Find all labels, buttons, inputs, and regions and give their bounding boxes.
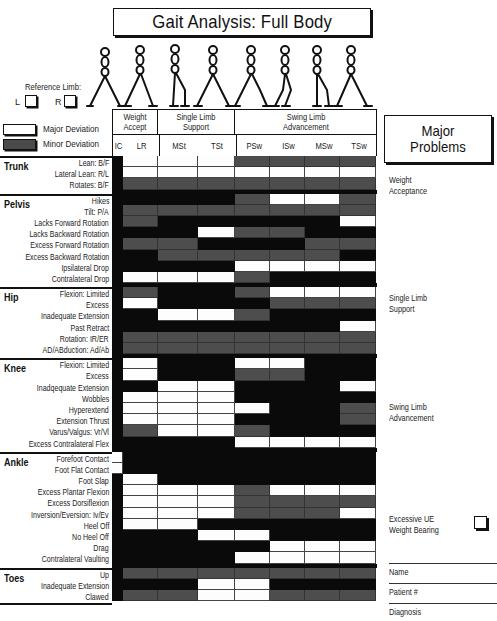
grid-cell-mst[interactable] bbox=[158, 519, 198, 530]
grid-cell-mst[interactable] bbox=[158, 392, 198, 403]
grid-cell-psw[interactable] bbox=[235, 485, 270, 496]
grid-cell-tst[interactable] bbox=[198, 343, 235, 354]
grid-cell-tst[interactable] bbox=[198, 272, 235, 283]
grid-cell-mst[interactable] bbox=[158, 381, 198, 392]
grid-cell-mst[interactable] bbox=[158, 332, 198, 343]
grid-cell-tst[interactable] bbox=[198, 381, 235, 392]
grid-cell-psw[interactable] bbox=[235, 272, 270, 283]
grid-cell-isw[interactable] bbox=[270, 205, 305, 216]
grid-cell-lr[interactable] bbox=[123, 167, 158, 178]
grid-cell-tst[interactable] bbox=[198, 590, 235, 601]
grid-cell-mst[interactable] bbox=[158, 272, 198, 283]
grid-cell-lr[interactable] bbox=[123, 496, 158, 507]
grid-cell-isw[interactable] bbox=[270, 568, 305, 579]
grid-cell-tsw[interactable] bbox=[340, 332, 376, 343]
grid-cell-tsw[interactable] bbox=[340, 194, 376, 205]
grid-cell-lr[interactable] bbox=[123, 332, 158, 343]
grid-cell-lr[interactable] bbox=[123, 414, 158, 425]
grid-cell-psw[interactable] bbox=[235, 287, 270, 298]
grid-cell-lr[interactable] bbox=[123, 508, 158, 519]
grid-cell-mst[interactable] bbox=[158, 156, 198, 167]
grid-cell-mst[interactable] bbox=[158, 425, 198, 436]
grid-cell-tsw[interactable] bbox=[340, 437, 376, 448]
grid-cell-isw[interactable] bbox=[270, 261, 305, 272]
grid-cell-lr[interactable] bbox=[123, 392, 158, 403]
reference-limb-right-checkbox[interactable] bbox=[64, 95, 76, 107]
grid-cell-lr[interactable] bbox=[123, 343, 158, 354]
grid-cell-msw[interactable] bbox=[305, 590, 340, 601]
grid-cell-lr[interactable] bbox=[123, 425, 158, 436]
grid-cell-msw[interactable] bbox=[305, 332, 340, 343]
grid-cell-psw[interactable] bbox=[235, 590, 270, 601]
grid-cell-tst[interactable] bbox=[198, 403, 235, 414]
grid-cell-mst[interactable] bbox=[158, 343, 198, 354]
grid-cell-lr[interactable] bbox=[123, 272, 158, 283]
grid-cell-psw[interactable] bbox=[235, 403, 270, 414]
grid-cell-psw[interactable] bbox=[235, 194, 270, 205]
grid-cell-lr[interactable] bbox=[123, 156, 158, 167]
grid-cell-lr[interactable] bbox=[123, 403, 158, 414]
grid-cell-tsw[interactable] bbox=[340, 414, 376, 425]
grid-cell-tst[interactable] bbox=[198, 579, 235, 590]
grid-cell-msw[interactable] bbox=[305, 496, 340, 507]
grid-cell-msw[interactable] bbox=[305, 205, 340, 216]
grid-cell-tst[interactable] bbox=[198, 309, 235, 320]
grid-cell-psw[interactable] bbox=[235, 579, 270, 590]
grid-cell-tsw[interactable] bbox=[340, 552, 376, 563]
grid-cell-mst[interactable] bbox=[158, 508, 198, 519]
grid-cell-isw[interactable] bbox=[270, 343, 305, 354]
grid-cell-lr[interactable] bbox=[123, 205, 158, 216]
grid-cell-mst[interactable] bbox=[158, 403, 198, 414]
grid-cell-tsw[interactable] bbox=[340, 321, 376, 332]
grid-cell-tsw[interactable] bbox=[340, 178, 376, 189]
grid-cell-tsw[interactable] bbox=[340, 205, 376, 216]
grid-cell-psw[interactable] bbox=[235, 167, 270, 178]
grid-cell-psw[interactable] bbox=[235, 552, 270, 563]
grid-cell-isw[interactable] bbox=[270, 194, 305, 205]
grid-cell-msw[interactable] bbox=[305, 541, 340, 552]
grid-cell-psw[interactable] bbox=[235, 369, 270, 380]
grid-cell-tsw[interactable] bbox=[340, 541, 376, 552]
grid-cell-msw[interactable] bbox=[305, 568, 340, 579]
grid-cell-psw[interactable] bbox=[235, 530, 270, 541]
grid-cell-msw[interactable] bbox=[305, 238, 340, 249]
grid-cell-msw[interactable] bbox=[305, 250, 340, 261]
grid-cell-isw[interactable] bbox=[270, 369, 305, 380]
grid-cell-lr[interactable] bbox=[123, 485, 158, 496]
grid-cell-lr[interactable] bbox=[123, 474, 158, 485]
grid-cell-mst[interactable] bbox=[158, 205, 198, 216]
grid-cell-isw[interactable] bbox=[270, 552, 305, 563]
grid-cell-tsw[interactable] bbox=[340, 508, 376, 519]
grid-cell-isw[interactable] bbox=[270, 156, 305, 167]
grid-cell-tst[interactable] bbox=[198, 508, 235, 519]
grid-cell-tst[interactable] bbox=[198, 414, 235, 425]
grid-cell-tsw[interactable] bbox=[340, 590, 376, 601]
reference-limb-left-checkbox[interactable] bbox=[25, 95, 37, 107]
grid-cell-psw[interactable] bbox=[235, 205, 270, 216]
grid-cell-lr[interactable] bbox=[123, 216, 158, 227]
grid-cell-tst[interactable] bbox=[198, 392, 235, 403]
grid-cell-isw[interactable] bbox=[270, 287, 305, 298]
grid-cell-tst[interactable] bbox=[198, 568, 235, 579]
name-field[interactable]: Name bbox=[389, 563, 497, 577]
grid-cell-tsw[interactable] bbox=[340, 287, 376, 298]
grid-cell-psw[interactable] bbox=[235, 261, 270, 272]
grid-cell-lr[interactable] bbox=[123, 358, 158, 369]
grid-cell-tst[interactable] bbox=[198, 530, 235, 541]
grid-cell-isw[interactable] bbox=[270, 250, 305, 261]
grid-cell-tst[interactable] bbox=[198, 485, 235, 496]
grid-cell-isw[interactable] bbox=[270, 541, 305, 552]
grid-cell-mst[interactable] bbox=[158, 250, 198, 261]
grid-cell-tsw[interactable] bbox=[340, 156, 376, 167]
grid-cell-tsw[interactable] bbox=[340, 238, 376, 249]
grid-cell-tst[interactable] bbox=[198, 332, 235, 343]
grid-cell-msw[interactable] bbox=[305, 552, 340, 563]
grid-cell-psw[interactable] bbox=[235, 178, 270, 189]
grid-cell-psw[interactable] bbox=[235, 508, 270, 519]
grid-cell-tsw[interactable] bbox=[340, 496, 376, 507]
grid-cell-tsw[interactable] bbox=[340, 298, 376, 309]
grid-cell-ic[interactable] bbox=[112, 463, 123, 474]
grid-cell-msw[interactable] bbox=[305, 261, 340, 272]
grid-cell-tsw[interactable] bbox=[340, 261, 376, 272]
grid-cell-tst[interactable] bbox=[198, 227, 235, 238]
